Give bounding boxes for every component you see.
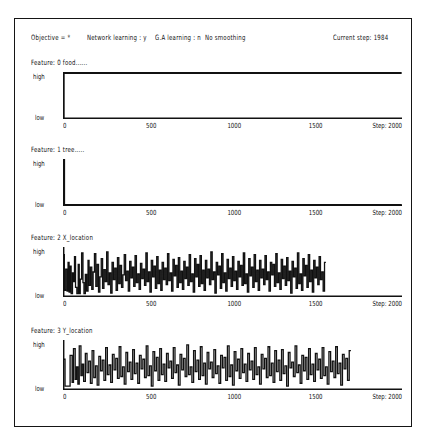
x-tick-0-1: 0 [63, 208, 66, 217]
y-axis-high-label-1: high [33, 159, 45, 168]
plot-area-1 [63, 159, 402, 206]
network-learning-label: Network learning : y [87, 32, 147, 43]
y-axis-low-label-3: low [35, 384, 44, 393]
y-axis-low-label-2: low [35, 291, 44, 300]
x-tick-1500-3: 1500 [309, 392, 323, 401]
ga-learning-label: G.A learning : n [155, 32, 201, 43]
y-axis-low-label-0: low [35, 113, 44, 122]
plot-area-2 [63, 247, 402, 297]
trace-plot-1 [63, 159, 402, 206]
y-axis-high-label-3: high [33, 340, 45, 349]
x-axis-end-label-2: Step: 2000 [372, 299, 402, 308]
x-tick-1000-2: 1000 [227, 299, 241, 308]
trace-plot-2 [63, 247, 402, 297]
plot-area-0 [63, 72, 402, 119]
x-tick-row-3: 0 500 1000 1500 Step: 2000 [63, 392, 402, 401]
feature-title-2: Feature: 2 X_location [31, 232, 93, 243]
feature-panel-2: Feature: 2 X_location high low 0 500 100… [15, 232, 411, 325]
feature-panel-3: Feature: 3 Y_location high low 0 500 100… [15, 325, 411, 422]
x-tick-row-1: 0 500 1000 1500 Step: 2000 [63, 208, 402, 217]
trace-line-1 [63, 160, 401, 205]
feature-title-1: Feature: 1 tree..... [31, 144, 84, 155]
x-axis-end-label-0: Step: 2000 [372, 121, 402, 130]
trace-line-0 [63, 73, 401, 118]
current-step-label: Current step: 1984 [333, 32, 388, 43]
feature-title-3: Feature: 3 Y_location [31, 325, 93, 336]
trace-line-3 [63, 345, 351, 386]
x-tick-1000-3: 1000 [227, 392, 241, 401]
trace-plot-0 [63, 72, 402, 119]
feature-trace-window: Objective = * Network learning : y G.A l… [14, 18, 412, 427]
x-tick-1500-2: 1500 [309, 299, 323, 308]
x-tick-1000-0: 1000 [227, 121, 241, 130]
feature-panel-1: Feature: 1 tree..... high low 0 500 1000… [15, 144, 411, 232]
x-tick-500-3: 500 [146, 392, 156, 401]
trace-plot-3 [63, 340, 402, 390]
objective-label: Objective = * [31, 32, 70, 43]
x-tick-500-1: 500 [146, 208, 156, 217]
x-tick-1500-1: 1500 [309, 208, 323, 217]
x-tick-0-0: 0 [63, 121, 66, 130]
smoothing-label: No smoothing [205, 32, 246, 43]
x-axis-end-label-1: Step: 2000 [372, 208, 402, 217]
x-tick-row-2: 0 500 1000 1500 Step: 2000 [63, 299, 402, 308]
x-tick-1500-0: 1500 [309, 121, 323, 130]
y-axis-low-label-1: low [35, 200, 44, 209]
x-tick-500-0: 500 [146, 121, 156, 130]
status-header: Objective = * Network learning : y G.A l… [15, 32, 411, 44]
y-axis-high-label-2: high [33, 247, 45, 256]
plot-area-3 [63, 340, 402, 390]
trace-line-2 [63, 252, 326, 294]
x-tick-row-0: 0 500 1000 1500 Step: 2000 [63, 121, 402, 130]
feature-title-0: Feature: 0 food...... [31, 57, 88, 68]
x-tick-0-2: 0 [63, 299, 66, 308]
x-tick-1000-1: 1000 [227, 208, 241, 217]
x-axis-end-label-3: Step: 2000 [372, 392, 402, 401]
x-tick-500-2: 500 [146, 299, 156, 308]
feature-panel-0: Feature: 0 food...... high low 0 500 100… [15, 57, 411, 144]
y-axis-high-label-0: high [33, 72, 45, 81]
x-tick-0-3: 0 [63, 392, 66, 401]
